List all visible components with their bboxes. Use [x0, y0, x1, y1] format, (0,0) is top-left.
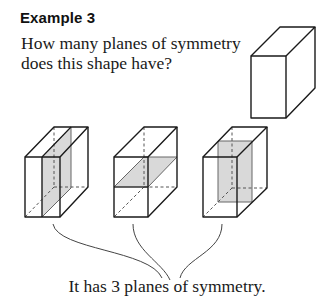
cuboid-plane-3 [203, 127, 267, 217]
symmetry-figure [0, 0, 334, 300]
main-cuboid [251, 27, 315, 118]
cuboid-plane-1 [25, 127, 88, 217]
answer-text: It has 3 planes of symmetry. [0, 276, 334, 297]
cuboid-plane-2 [114, 127, 177, 217]
connector-curves [53, 224, 222, 280]
